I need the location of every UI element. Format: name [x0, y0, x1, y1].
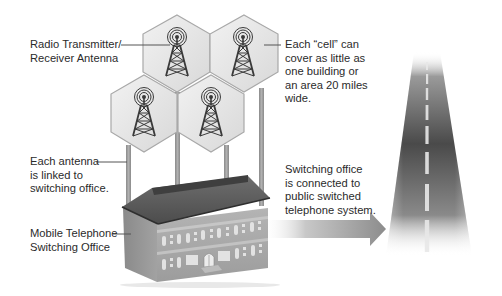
label-line: Each “cell” can	[285, 38, 368, 52]
label-pstn-connection: Switching office is connected to public …	[285, 163, 376, 217]
label-line: Receiver Antenna	[30, 52, 121, 66]
label-line: is linked to	[30, 169, 109, 183]
label-line: Switching Office	[30, 241, 118, 255]
label-antenna: Radio Transmitter/ Receiver Antenna	[30, 38, 121, 65]
label-line: public switched	[285, 190, 376, 204]
label-line: an area 20 miles	[285, 79, 368, 93]
label-line: switching office.	[30, 182, 109, 196]
label-antenna-linked: Each antenna is linked to switching offi…	[30, 155, 109, 196]
label-line: Switching office	[285, 163, 376, 177]
label-line: wide.	[285, 92, 368, 106]
label-line: Each antenna	[30, 155, 109, 169]
label-line: one building or	[285, 65, 368, 79]
label-cell-size: Each “cell” can cover as little as one b…	[285, 38, 368, 106]
label-line: is connected to	[285, 177, 376, 191]
label-switching-office: Mobile Telephone Switching Office	[30, 227, 118, 254]
label-line: telephone system.	[285, 204, 376, 218]
building-icon	[120, 175, 280, 288]
label-line: cover as little as	[285, 52, 368, 66]
label-line: Mobile Telephone	[30, 227, 118, 241]
cellular-network-diagram: Radio Transmitter/ Receiver Antenna Each…	[0, 0, 502, 296]
label-line: Radio Transmitter/	[30, 38, 121, 52]
highway-icon	[386, 52, 472, 256]
